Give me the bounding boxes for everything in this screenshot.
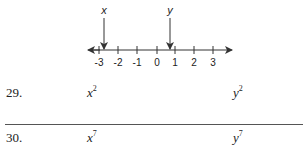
problem-left-expression: x2 — [87, 85, 97, 101]
problem-left-expression: x7 — [87, 130, 97, 146]
number-line-diagram: -3 -2 -1 0 1 2 3 x y — [0, 0, 305, 75]
worksheet-page: -3 -2 -1 0 1 2 3 x y 29. x2 y2 30. x7 y7 — [0, 0, 305, 157]
problem-right-expression: y7 — [233, 130, 243, 146]
exponent: 2 — [93, 84, 97, 93]
tick-label: -2 — [114, 57, 123, 68]
divider-line — [5, 124, 303, 125]
y-marker: y — [166, 4, 174, 49]
tick-label: 3 — [210, 57, 216, 68]
x-marker: x — [100, 4, 107, 49]
tick-label: 0 — [154, 57, 160, 68]
problem-number: 30. — [6, 130, 22, 146]
tick-label: -3 — [95, 57, 104, 68]
problem-right-expression: y2 — [233, 85, 243, 101]
tick-label: 2 — [191, 57, 197, 68]
problem-number: 29. — [6, 85, 22, 101]
exponent: 2 — [239, 84, 243, 93]
exponent: 7 — [93, 129, 97, 138]
x-marker-label: x — [100, 4, 107, 16]
exponent: 7 — [239, 129, 243, 138]
tick-label: -1 — [133, 57, 142, 68]
y-marker-label: y — [166, 4, 174, 16]
tick-labels: -3 -2 -1 0 1 2 3 — [95, 57, 217, 68]
tick-label: 1 — [172, 57, 178, 68]
